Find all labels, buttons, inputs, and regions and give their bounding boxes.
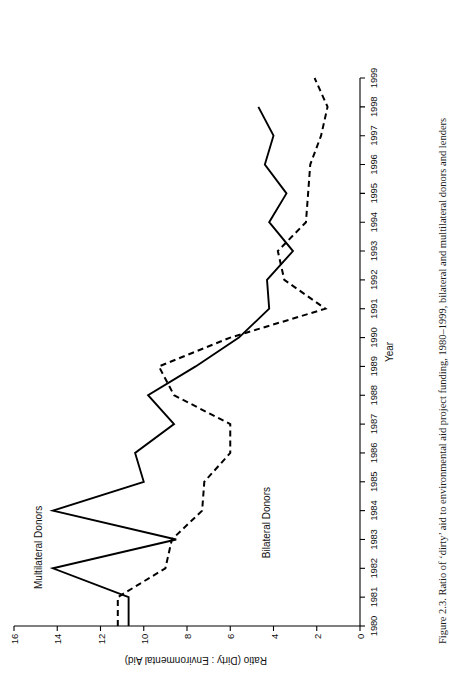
y-axis-tick-label: 10 (138, 634, 149, 656)
y-axis-tick-label: 4 (268, 634, 279, 656)
x-axis-tick-label: 1991 (368, 299, 379, 319)
x-axis-tick-label: 1995 (368, 183, 379, 203)
series-label-bilateral: Bilateral Donors (261, 487, 272, 558)
chart-axes (14, 78, 360, 626)
x-axis-tick-label: 1984 (368, 500, 379, 520)
x-axis-tick-label: 1996 (368, 154, 379, 174)
x-axis-tick-label: 1985 (368, 472, 379, 492)
y-axis-tick-label: 14 (52, 634, 63, 656)
x-axis-tick-label: 1980 (368, 616, 379, 636)
figure-caption-text: Figure 2.3. Ratio of ‘dirty’ aid to envi… (436, 28, 449, 644)
x-axis-tick-label: 1982 (368, 558, 379, 578)
x-axis-tick-label: 1981 (368, 587, 379, 607)
y-axis-tick-label: 0 (355, 634, 366, 656)
x-axis-tick-label: 1999 (368, 68, 379, 88)
y-axis-tick-label: 6 (225, 634, 236, 656)
x-axis-title: Year (384, 342, 395, 362)
x-axis-tick-label: 1993 (368, 241, 379, 261)
x-axis-tick-label: 1998 (368, 97, 379, 117)
y-axis-tick-label: 2 (311, 634, 322, 656)
x-axis-tick-label: 1988 (368, 385, 379, 405)
series-line-bilateral (118, 78, 328, 626)
y-axis-title: Ratio (Dirty : Environmental Aid) (125, 655, 267, 666)
y-axis-tick-label: 12 (95, 634, 106, 656)
x-axis-tick-label: 1989 (368, 356, 379, 376)
x-axis-tick-label: 1987 (368, 414, 379, 434)
y-axis-tick-label: 8 (182, 634, 193, 656)
series-line-multilateral (53, 107, 293, 626)
y-axis-ticks (14, 626, 360, 631)
x-axis-tick-label: 1997 (368, 126, 379, 146)
x-axis-tick-label: 1992 (368, 270, 379, 290)
chart-plot-area: 1980198119821983198419851986198719881989… (0, 62, 446, 674)
data-series-group (53, 78, 328, 626)
line-chart (0, 62, 446, 674)
x-axis-ticks (360, 78, 365, 626)
x-axis-tick-label: 1994 (368, 212, 379, 232)
series-label-multilateral: Multilateral Donors (33, 506, 44, 589)
x-axis-tick-label: 1986 (368, 443, 379, 463)
x-axis-tick-label: 1983 (368, 529, 379, 549)
figure-caption: Figure 2.3. Ratio of ‘dirty’ aid to envi… (420, 28, 440, 648)
x-axis-tick-label: 1990 (368, 327, 379, 347)
y-axis-tick-label: 16 (9, 634, 20, 656)
